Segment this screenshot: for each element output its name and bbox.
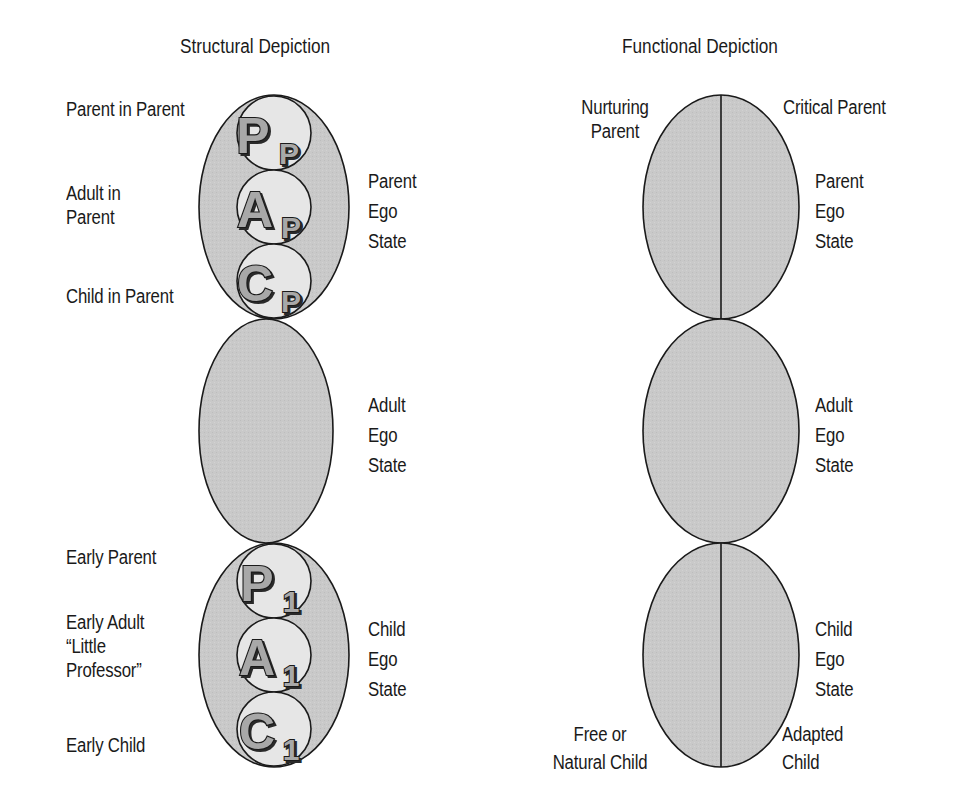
label-functional-adult-ego-state: Adult Ego State — [815, 390, 853, 480]
label-functional-parent-ego-state: Parent Ego State — [815, 166, 863, 256]
label-parent-in-parent: Parent in Parent — [66, 97, 184, 121]
svg-text:P: P — [279, 137, 299, 170]
label-adult-in-parent: Adult in Parent — [66, 181, 121, 229]
structural-adult-ego-state-ellipse — [199, 319, 333, 543]
svg-text:P: P — [236, 108, 269, 164]
structural-title: Structural Depiction — [180, 34, 330, 58]
functional-diagram — [643, 95, 799, 767]
circle-child-in-parent: C C P P — [237, 244, 311, 320]
circle-early-parent: P P 1 1 — [237, 544, 311, 620]
svg-text:1: 1 — [283, 585, 300, 618]
label-early-parent: Early Parent — [66, 545, 156, 569]
circle-early-child: C C 1 1 — [237, 692, 311, 768]
label-nurturing-parent: Nurturing Parent — [568, 95, 663, 143]
label-critical-parent: Critical Parent — [783, 95, 886, 119]
functional-title: Functional Depiction — [622, 34, 778, 58]
label-structural-child-ego-state: Child Ego State — [368, 614, 406, 704]
svg-text:1: 1 — [283, 733, 300, 766]
svg-text:P: P — [240, 556, 273, 612]
svg-text:C: C — [239, 704, 275, 760]
label-structural-adult-ego-state: Adult Ego State — [368, 390, 406, 480]
label-early-adult-little-professor: Early Adult “Little Professor” — [66, 610, 144, 682]
svg-text:A: A — [237, 182, 273, 238]
svg-text:P: P — [281, 211, 301, 244]
circle-parent-in-parent: P P P P — [236, 96, 311, 172]
functional-adult-ego-state-ellipse — [643, 319, 799, 543]
svg-text:1: 1 — [283, 659, 300, 692]
label-early-child: Early Child — [66, 733, 145, 757]
label-functional-child-ego-state: Child Ego State — [815, 614, 853, 704]
label-child-in-parent: Child in Parent — [66, 284, 173, 308]
label-structural-parent-ego-state: Parent Ego State — [368, 166, 416, 256]
structural-diagram: P P P P A A P P C C P P P P 1 1 — [199, 95, 349, 768]
circle-adult-in-parent: A A P P — [237, 170, 311, 246]
circle-early-adult: A A 1 1 — [237, 618, 311, 694]
label-adapted-child: Adapted Child — [782, 720, 843, 776]
svg-text:A: A — [239, 630, 275, 686]
label-free-or-natural-child: Free or Natural Child — [540, 720, 660, 776]
svg-text:C: C — [237, 256, 273, 312]
svg-text:P: P — [281, 285, 301, 318]
